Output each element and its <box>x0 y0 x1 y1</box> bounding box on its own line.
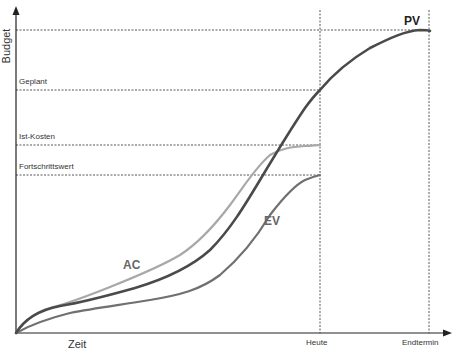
y-axis-label: Budget <box>0 26 12 66</box>
ac-series-label: AC <box>123 258 140 272</box>
pv-curve <box>16 30 430 333</box>
y-axis-arrow-icon <box>13 6 20 15</box>
x-axis-arrow-icon <box>443 330 452 337</box>
ev-series-label: EV <box>264 214 280 228</box>
ist-kosten-label: Ist-Kosten <box>19 132 55 141</box>
fortschrittswert-label: Fortschrittswert <box>19 162 74 171</box>
geplant-label: Geplant <box>19 77 47 86</box>
x-axis-label: Zeit <box>68 338 86 350</box>
earned-value-chart <box>0 0 453 355</box>
pv-series-label: PV <box>404 14 420 28</box>
ev-curve <box>16 175 320 333</box>
endtermin-label: Endtermin <box>402 338 438 347</box>
heute-label: Heute <box>306 338 327 347</box>
